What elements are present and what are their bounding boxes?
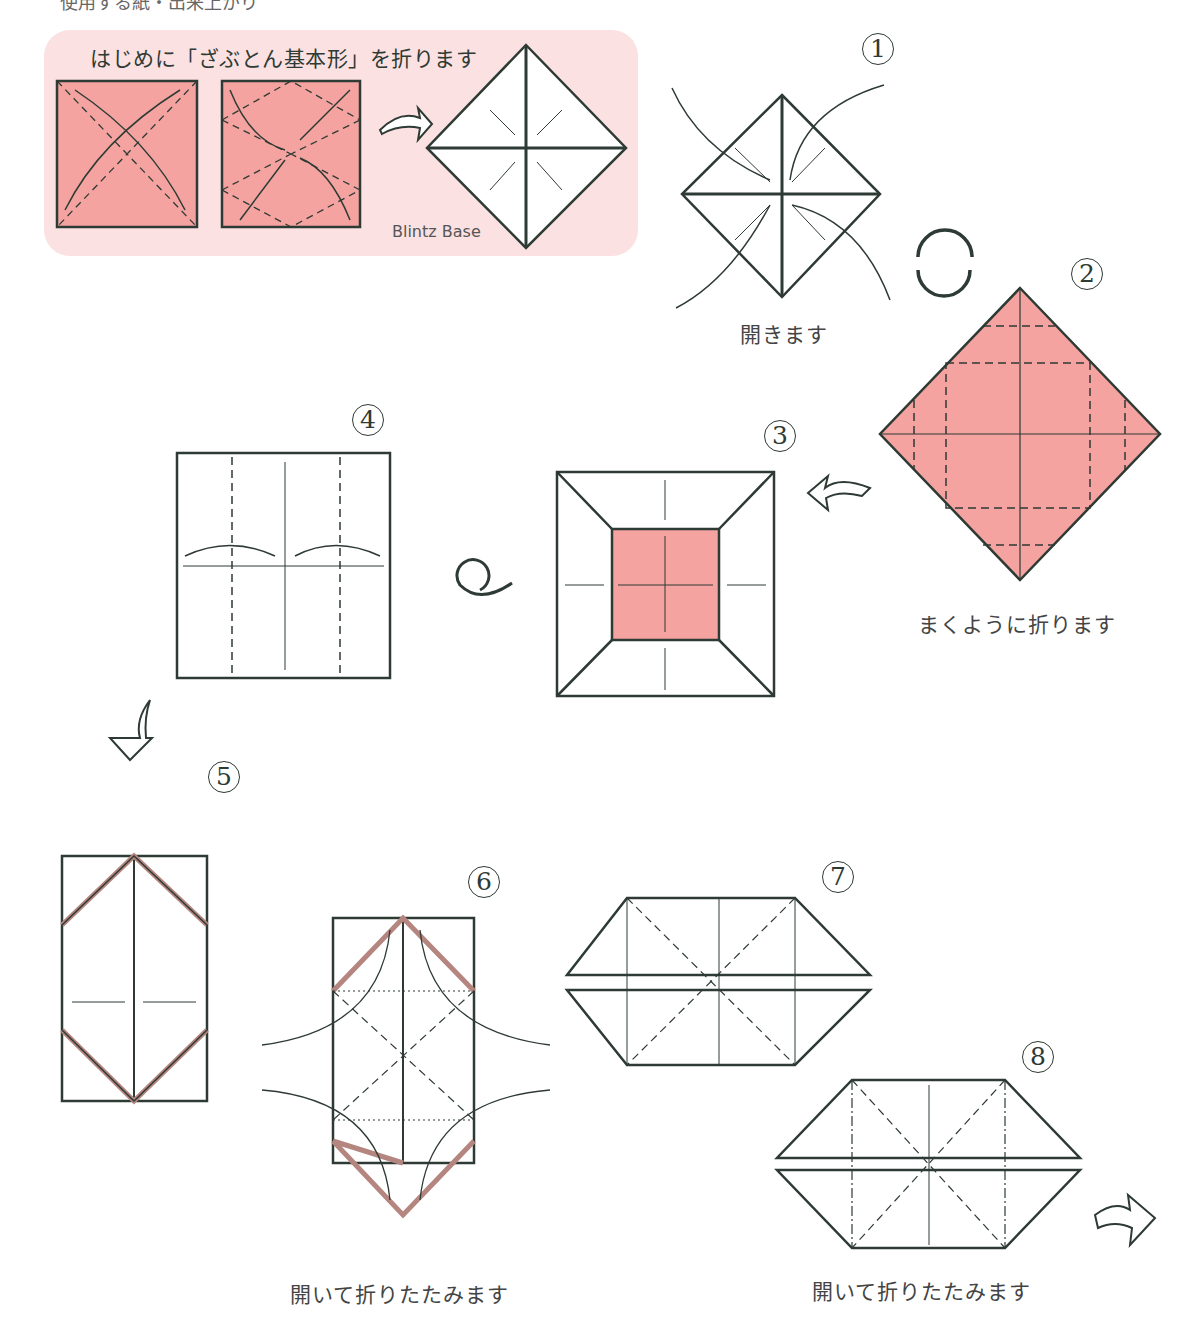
- rotate-icon: [918, 230, 972, 296]
- step-8-diagram: [777, 1080, 1080, 1248]
- step-4-diagram: [177, 453, 390, 678]
- blintz-base-diamond: [427, 45, 626, 248]
- step-6-diagram: [262, 918, 550, 1215]
- step-6-caption: 開いて折りたたみます: [290, 1278, 509, 1308]
- next-arrow-icon-2: [1095, 1195, 1155, 1245]
- step-number-2: 2: [1071, 258, 1103, 290]
- step-number-1: 1: [862, 33, 894, 65]
- step-number-3: 3: [764, 420, 796, 452]
- step-number-4: 4: [352, 404, 384, 436]
- step-3-diagram: [557, 472, 774, 696]
- step-8-caption: 開いて折りたたみます: [812, 1275, 1031, 1305]
- next-arrow-icon: [380, 108, 432, 140]
- down-arrow-icon: [110, 700, 152, 760]
- step-5-diagram: [62, 856, 207, 1101]
- back-arrow-icon: [808, 476, 870, 510]
- step-7-diagram: [567, 898, 870, 1065]
- step-number-8: 8: [1022, 1041, 1054, 1073]
- step-1-caption: 開きます: [740, 318, 828, 348]
- intro-square-2: [222, 81, 360, 227]
- step-number-6: 6: [468, 866, 500, 898]
- step-2-caption: まくように折ります: [918, 608, 1116, 638]
- step-1-diagram: [672, 85, 890, 308]
- intro-square-1: [57, 81, 197, 227]
- turn-over-icon: [457, 560, 512, 595]
- origami-diagram: [0, 0, 1195, 1333]
- step-number-7: 7: [822, 861, 854, 893]
- step-2-diagram: [880, 288, 1160, 580]
- step-number-5: 5: [208, 761, 240, 793]
